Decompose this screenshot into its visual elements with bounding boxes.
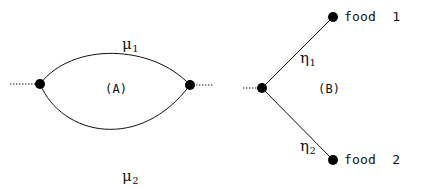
mu-2-label: μ2	[103, 154, 139, 189]
mu-2-symbol: μ	[122, 167, 132, 185]
food-2-label: food 2	[344, 153, 400, 166]
mu-2-subscript: 2	[132, 175, 139, 186]
eta-2-subscript: 2	[309, 145, 316, 156]
panel-a-left-node	[35, 79, 45, 89]
panel-a-tag: (A)	[105, 83, 127, 95]
eta-1-label: η1	[281, 36, 316, 83]
eta-2-symbol: η	[300, 137, 309, 155]
eta-2-label: η2	[281, 124, 316, 171]
panel-b-food-2-node	[328, 155, 338, 165]
mu-1-subscript: 1	[132, 43, 139, 54]
eta-1-subscript: 1	[309, 57, 316, 68]
mu-1-label: μ1	[103, 22, 139, 69]
figure-canvas: μ1 μ2 (A) η1 η2 (B) food 1 food 2	[0, 0, 427, 189]
panel-b-center-node	[257, 83, 267, 93]
panel-b-food-1-node	[328, 12, 338, 22]
mu-1-symbol: μ	[122, 35, 132, 53]
panel-b-tag: (B)	[318, 83, 340, 95]
eta-1-symbol: η	[300, 49, 309, 67]
food-1-label: food 1	[344, 10, 400, 23]
panel-a-right-node	[185, 80, 195, 90]
